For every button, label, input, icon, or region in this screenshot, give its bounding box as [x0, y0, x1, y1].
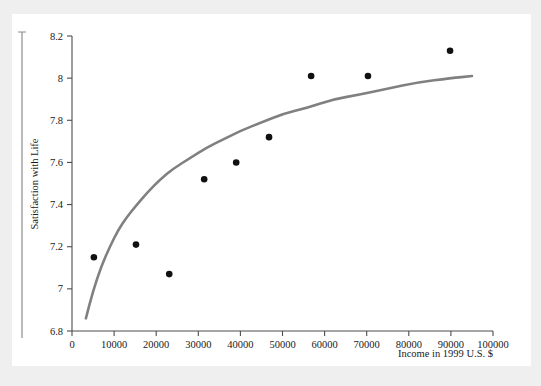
- x-axis-tick-label: 30000: [185, 339, 211, 350]
- data-point-group: [91, 47, 454, 277]
- y-axis-tick-label: 8: [58, 73, 63, 84]
- x-axis-tick-label: 10000: [101, 339, 127, 350]
- x-axis-ticks: [72, 331, 493, 336]
- y-axis-tick-label: 7.2: [50, 241, 63, 252]
- y-axis-title: Satisfaction with Life: [29, 138, 40, 229]
- data-point: [91, 254, 98, 261]
- x-axis-tick-label: 0: [69, 339, 74, 350]
- data-point: [266, 134, 273, 141]
- data-point: [233, 159, 240, 166]
- data-point: [201, 176, 208, 183]
- data-point: [166, 271, 173, 278]
- y-axis-tick-label: 7.8: [50, 115, 63, 126]
- fitted-curve: [86, 76, 472, 318]
- y-axis-tick-label: 7.6: [50, 157, 63, 168]
- y-axis-ticks: [67, 36, 72, 331]
- y-axis-tick-label: 7: [58, 283, 63, 294]
- data-point: [308, 73, 315, 80]
- x-axis-tick-label: 70000: [354, 339, 380, 350]
- x-axis-tick-label: 20000: [143, 339, 169, 350]
- x-axis-tick-label: 60000: [311, 339, 337, 350]
- figure-container: 6.877.27.47.67.888.2 0100002000030000400…: [0, 0, 541, 386]
- data-point: [447, 47, 454, 54]
- scatter-chart: 6.877.27.47.67.888.2 0100002000030000400…: [0, 0, 541, 386]
- y-axis-tick-label: 8.2: [50, 31, 63, 42]
- y-axis-tick-labels: 6.877.27.47.67.888.2: [50, 31, 64, 337]
- data-point: [133, 241, 140, 248]
- data-point: [365, 73, 372, 80]
- y-axis-tick-label: 6.8: [50, 326, 63, 337]
- x-axis-tick-label: 40000: [227, 339, 253, 350]
- x-axis-title: Income in 1999 U.S. $: [398, 348, 493, 359]
- y-axis-tick-label: 7.4: [50, 199, 64, 210]
- x-axis-tick-label: 50000: [269, 339, 295, 350]
